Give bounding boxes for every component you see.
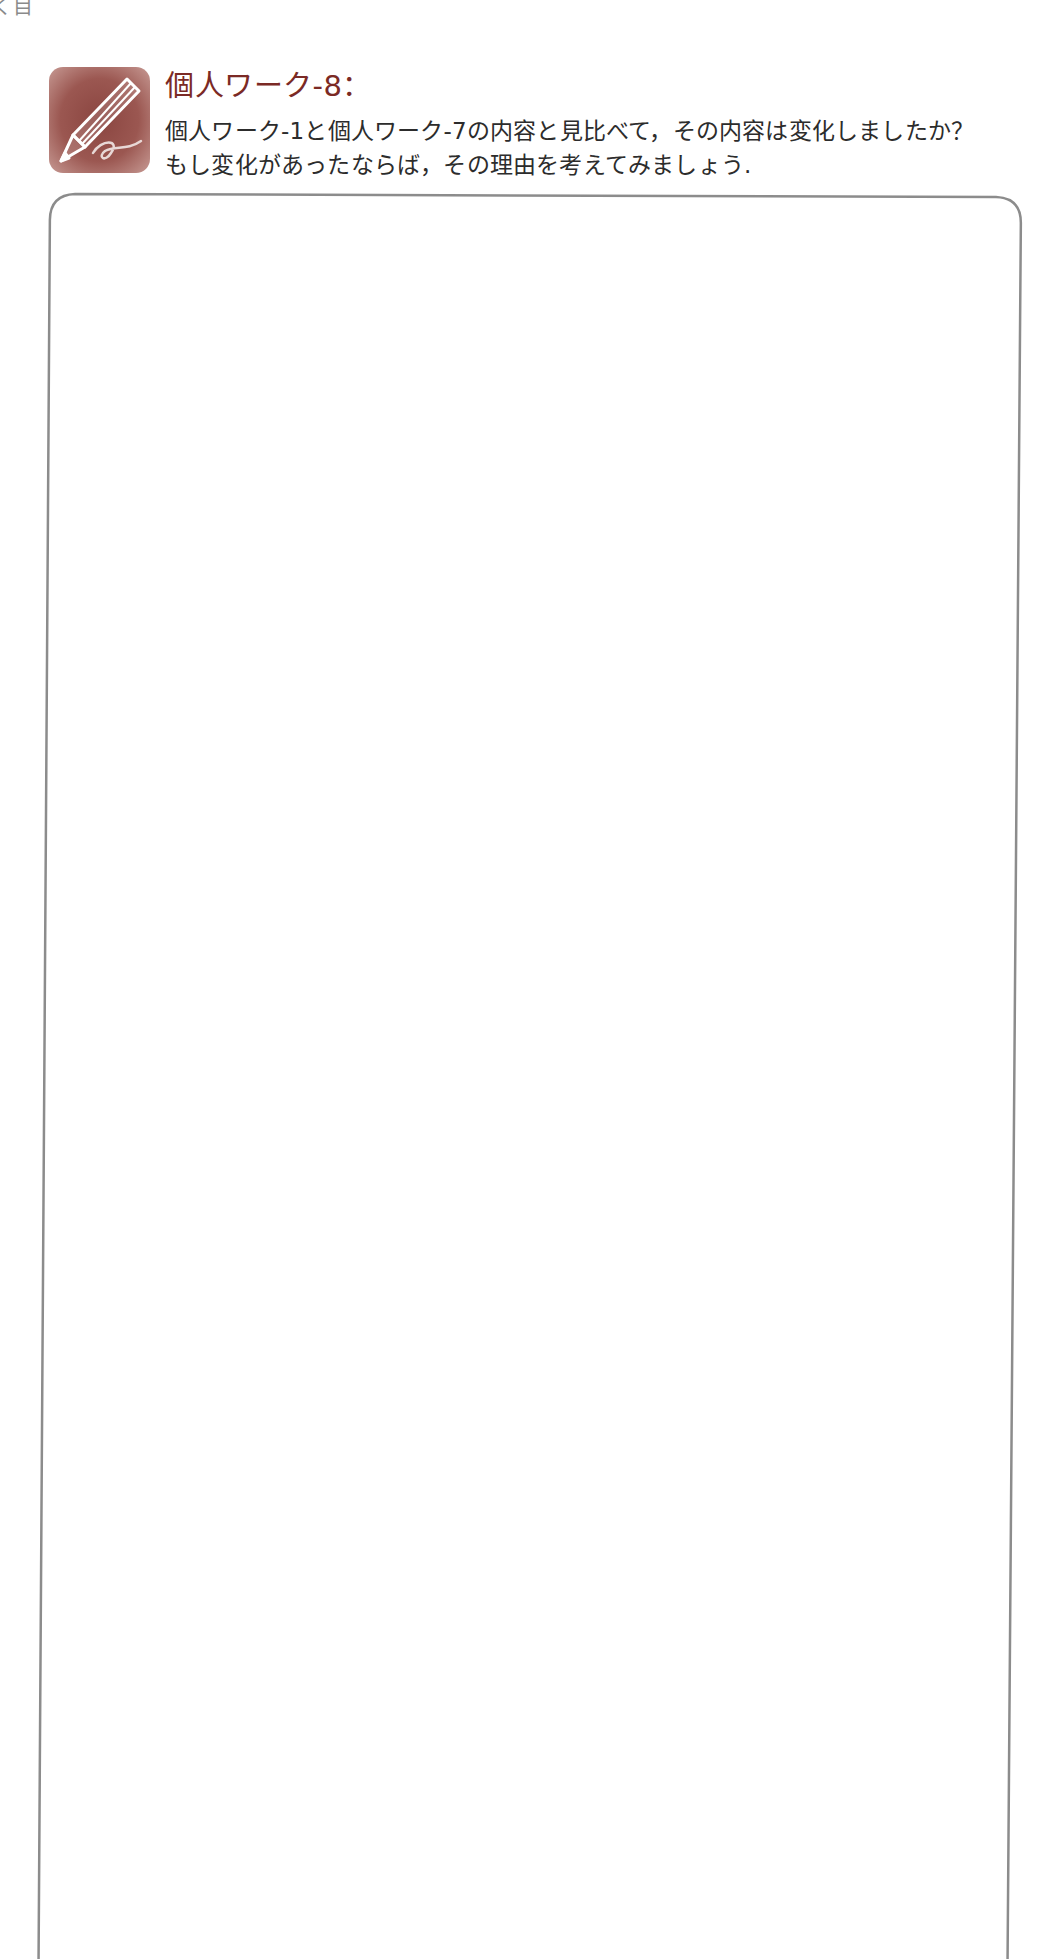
answer-writing-area[interactable] (60, 205, 1000, 1959)
